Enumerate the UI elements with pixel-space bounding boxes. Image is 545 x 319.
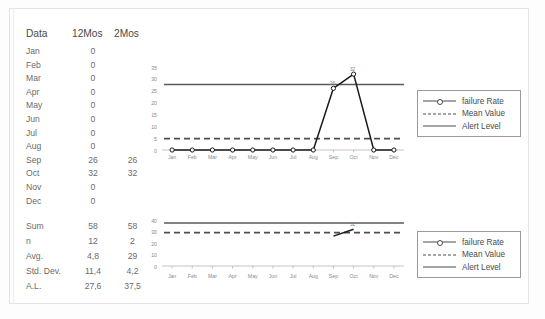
monthly-data-table: Data 12Mos 2Mos Jan 0 Feb 0 Mar 0 A [26, 24, 151, 208]
table-row: Dec 0 [26, 195, 151, 209]
dashed-line-icon [423, 249, 456, 261]
row-value-12mos: 0 [72, 195, 114, 209]
row-value-12mos: 0 [72, 72, 114, 86]
legend-item-mean-value: Mean Value [423, 249, 514, 262]
x-tick-label: Oct [350, 154, 359, 160]
row-label: May [26, 99, 72, 113]
table-row: Nov 0 [26, 181, 151, 195]
row-label: Sep [26, 154, 72, 168]
chart-top-legend: failure Rate Mean Value Alert Level [417, 90, 521, 137]
legend-item-failure-rate: failure Rate [423, 236, 514, 249]
legend-label: Mean Value [462, 250, 505, 259]
row-value-12mos: 0 [72, 99, 114, 113]
row-label: Dec [26, 195, 72, 209]
row-label: Feb [26, 59, 72, 73]
y-tick-label: 0 [154, 264, 157, 270]
row-label: Jun [26, 113, 72, 127]
table-row: Jan 0 [26, 45, 151, 59]
legend-label: failure Rate [462, 238, 504, 247]
line-marker-icon [423, 95, 456, 107]
frame-left-rule [13, 8, 14, 304]
summary-value-12mos: 4,8 [72, 249, 114, 264]
data-point-marker [230, 148, 234, 152]
data-point-marker [291, 148, 295, 152]
x-tick-label: Sep [329, 273, 338, 279]
legend-item-failure-rate: failure Rate [423, 95, 514, 108]
summary-label: n [26, 234, 72, 249]
header-12mos: 12Mos [72, 24, 114, 45]
data-point-marker [372, 148, 376, 152]
row-value-12mos: 26 [72, 154, 114, 168]
x-tick-label: Aug [309, 154, 318, 160]
x-tick-label: Sep [329, 154, 338, 160]
dashed-line-icon [423, 108, 456, 120]
summary-row: Avg. 4,8 29 [26, 249, 151, 264]
table-header-row: Data 12Mos 2Mos [26, 24, 151, 45]
chart-bottom-legend: failure Rate Mean Value Alert Level [417, 231, 521, 278]
y-tick-label: 15 [151, 112, 157, 118]
row-value-12mos: 0 [72, 86, 114, 100]
data-point-label: 26 [330, 81, 336, 86]
row-label: Apr [26, 86, 72, 100]
line-marker-icon [423, 236, 456, 248]
y-tick-label: 10 [151, 252, 157, 258]
row-value-12mos: 0 [72, 45, 114, 59]
y-tick-label: 20 [151, 100, 157, 106]
data-point-marker [351, 72, 355, 76]
solid-line-icon [423, 120, 456, 132]
data-point-label: 32 [350, 222, 356, 227]
data-point-marker [210, 148, 214, 152]
summary-label: A.L. [26, 279, 72, 294]
summary-label: Sum [26, 219, 72, 234]
x-tick-label: Apr [229, 154, 237, 160]
failure-rate-chart-12mos: 05101520253035JanFebMarAprMayJunJulAugSe… [138, 62, 406, 174]
y-tick-label: 10 [151, 124, 157, 130]
row-value-12mos: 0 [72, 113, 114, 127]
row-value-2mos [114, 195, 151, 209]
row-label: Jan [26, 45, 72, 59]
x-tick-label: Nov [369, 154, 379, 160]
legend-label: Alert Level [462, 263, 501, 272]
legend-label: Mean Value [462, 109, 505, 118]
x-tick-label: Mar [208, 273, 217, 279]
chart-top-svg: 05101520253035JanFebMarAprMayJunJulAugSe… [138, 62, 406, 174]
x-tick-label: Jun [269, 273, 277, 279]
summary-value-12mos: 27,6 [72, 279, 114, 294]
table-row: Sep 26 26 [26, 154, 151, 168]
summary-row: A.L. 27,6 37,5 [26, 279, 151, 294]
y-tick-label: 35 [151, 65, 157, 71]
y-tick-label: 40 [151, 218, 157, 224]
data-point-marker [331, 86, 335, 90]
legend-item-mean-value: Mean Value [423, 108, 514, 121]
summary-value-12mos: 58 [72, 219, 114, 234]
failure-rate-chart-2mos: 010203040JanFebMarAprMayJunJulAugSepOctN… [138, 216, 406, 296]
table-row: Aug 0 [26, 140, 151, 154]
x-tick-label: Apr [229, 273, 237, 279]
summary-row: Std. Dev. 11,4 4,2 [26, 264, 151, 279]
row-label: Oct [26, 167, 72, 181]
y-tick-label: 25 [151, 88, 157, 94]
x-tick-label: Nov [369, 273, 379, 279]
row-label: Aug [26, 140, 72, 154]
y-tick-label: 30 [151, 76, 157, 82]
row-label: Mar [26, 72, 72, 86]
x-tick-label: Jan [168, 154, 176, 160]
data-point-label: 32 [350, 67, 356, 72]
row-value-12mos: 32 [72, 167, 114, 181]
data-point-marker [251, 148, 255, 152]
table-row: Jun 0 [26, 113, 151, 127]
y-tick-label: 5 [154, 136, 157, 142]
x-tick-label: Dec [389, 273, 399, 279]
summary-label: Avg. [26, 249, 72, 264]
header-2mos: 2Mos [114, 24, 151, 45]
x-tick-label: May [248, 273, 258, 279]
row-label: Nov [26, 181, 72, 195]
summary-value-12mos: 11,4 [72, 264, 114, 279]
legend-label: Alert Level [462, 122, 501, 131]
x-tick-label: Dec [389, 154, 399, 160]
x-tick-label: Jan [168, 273, 176, 279]
x-tick-label: Jul [290, 273, 297, 279]
table-row: Feb 0 [26, 59, 151, 73]
table-row: May 0 [26, 99, 151, 113]
table-row: Mar 0 [26, 72, 151, 86]
